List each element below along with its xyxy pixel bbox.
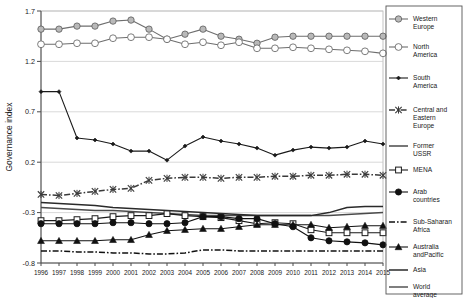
marker-square-open <box>308 227 314 233</box>
marker-square-open <box>110 214 116 220</box>
marker-circle-open <box>380 50 387 57</box>
marker-circle-gray <box>92 23 98 29</box>
x-tick-label: 2014 <box>358 269 373 276</box>
legend-label: Asia <box>413 266 426 273</box>
x-tick-label: 2015 <box>376 269 391 276</box>
marker-circle-open <box>128 34 135 41</box>
marker-circle-filled <box>164 221 170 227</box>
marker-circle-filled <box>110 220 116 226</box>
marker-square-open <box>344 230 350 236</box>
marker-circle-open <box>254 45 261 52</box>
marker-circle-filled <box>38 221 44 227</box>
x-tick-label: 2007 <box>232 269 247 276</box>
marker-circle-filled <box>326 238 332 244</box>
chart-root: -0.8-0.30.20.71.21.7Governance index1996… <box>0 0 464 298</box>
x-tick-label: 2013 <box>340 269 355 276</box>
marker-circle-gray <box>74 23 80 29</box>
marker-square-open <box>182 213 188 219</box>
marker-circle-filled <box>395 189 401 195</box>
marker-circle-open <box>92 40 99 47</box>
marker-circle-filled <box>74 221 80 227</box>
marker-circle-open <box>146 34 153 41</box>
marker-circle-filled <box>92 221 98 227</box>
marker-square-open <box>362 230 368 236</box>
x-tick-label: 2012 <box>322 269 337 276</box>
x-tick-label: 2011 <box>304 269 318 276</box>
y-axis-title: Governance index <box>4 102 14 172</box>
legend-label: Eastern <box>413 114 436 121</box>
legend-item-western-europe[interactable]: WesternEurope <box>389 15 438 31</box>
marker-circle-gray <box>290 33 296 39</box>
x-tick-label: 1996 <box>34 269 49 276</box>
x-tick-label: 1997 <box>52 269 67 276</box>
marker-circle-filled <box>200 214 206 220</box>
legend-label: Central and <box>413 106 447 113</box>
marker-circle-open <box>74 40 81 47</box>
marker-circle-open <box>164 36 171 43</box>
legend-item-mena[interactable]: MENA <box>389 166 433 173</box>
x-tick-label: 2001 <box>124 269 139 276</box>
legend-label: Sub-Saharan <box>413 218 452 225</box>
legend-label: World <box>413 283 430 290</box>
marker-circle-filled <box>146 221 152 227</box>
x-tick-label: 2005 <box>196 269 211 276</box>
legend-label: USSR <box>413 150 432 157</box>
legend-item-asia[interactable]: Asia <box>389 266 426 273</box>
marker-circle-open <box>200 39 207 46</box>
legend-label: Western <box>413 15 438 22</box>
legend-item-former-ussr[interactable]: FormerUSSR <box>389 142 435 157</box>
y-tick-label: 0.2 <box>25 158 35 167</box>
x-tick-label: 1999 <box>88 269 103 276</box>
marker-circle-gray <box>56 26 62 32</box>
marker-circle-gray <box>380 33 386 39</box>
legend-label: MENA <box>413 166 433 173</box>
marker-circle-gray <box>395 16 401 22</box>
marker-square-open <box>396 167 402 173</box>
marker-circle-open <box>362 48 369 55</box>
legend-label: countries <box>413 196 440 203</box>
legend-item-sub-saharan-africa[interactable]: Sub-SaharanAfrica <box>389 218 452 233</box>
x-tick-label: 2008 <box>250 269 265 276</box>
legend-label: North <box>413 43 429 50</box>
x-tick-label: 2010 <box>286 269 301 276</box>
legend-item-australia-andpacific[interactable]: AustraliaandPacific <box>389 243 444 258</box>
legend-item-world-average[interactable]: Worldaverage <box>389 283 437 298</box>
y-tick-label: 0.7 <box>25 107 35 116</box>
marker-circle-open <box>110 35 117 42</box>
marker-circle-open <box>236 39 243 46</box>
marker-circle-filled <box>344 239 350 245</box>
legend-item-central-and-eastern-europe[interactable]: Central andEasternEurope <box>389 106 447 130</box>
marker-circle-gray <box>200 26 206 32</box>
legend-item-south-america[interactable]: SouthAmerica <box>389 74 438 89</box>
marker-square-open <box>326 230 332 236</box>
x-tick-label: 2009 <box>268 269 283 276</box>
marker-circle-filled <box>308 235 314 241</box>
legend-item-north-america[interactable]: NorthAmerica <box>389 43 438 58</box>
legend-label: Europe <box>413 122 435 130</box>
legend-label: Australia <box>413 243 439 250</box>
marker-circle-gray <box>110 18 116 24</box>
marker-square-open <box>128 213 134 219</box>
marker-circle-gray <box>326 33 332 39</box>
marker-circle-gray <box>218 33 224 39</box>
marker-diamond <box>397 76 401 80</box>
x-tick-label: 2004 <box>178 269 193 276</box>
marker-circle-open <box>395 44 402 51</box>
marker-circle-open <box>38 41 45 48</box>
marker-circle-gray <box>38 26 44 32</box>
legend-label: South <box>413 74 431 81</box>
marker-circle-open <box>182 41 189 48</box>
x-tick-label: 2000 <box>106 269 121 276</box>
legend-item-arab-countries[interactable]: Arabcountries <box>389 188 440 203</box>
marker-circle-gray <box>128 17 134 23</box>
y-tick-label: -0.3 <box>23 208 35 217</box>
legend: WesternEuropeNorthAmericaSouthAmericaCen… <box>386 6 462 298</box>
marker-square-open <box>380 230 386 236</box>
marker-circle-gray <box>308 33 314 39</box>
marker-circle-filled <box>380 242 386 248</box>
legend-label: Africa <box>413 226 430 233</box>
marker-circle-gray <box>146 26 152 32</box>
y-tick-label: 1.2 <box>25 57 35 66</box>
marker-circle-open <box>56 41 63 48</box>
legend-label: Former <box>413 142 435 149</box>
